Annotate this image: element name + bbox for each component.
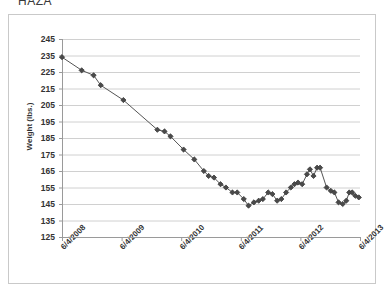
- data-point-marker: [304, 172, 309, 177]
- series-line: [62, 57, 359, 206]
- weight-line-chart: Weight (lbs.) 24523522521520519518517516…: [0, 0, 389, 300]
- plot-canvas: [0, 0, 389, 300]
- data-point-marker: [311, 173, 316, 178]
